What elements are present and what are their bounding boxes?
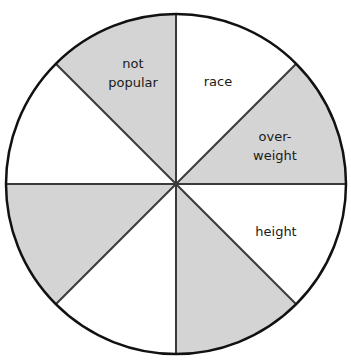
label-overweight-line1: over- (259, 129, 292, 144)
label-not-popular-line2: popular (108, 75, 158, 90)
divider-lines (6, 14, 346, 354)
label-overweight-line2: weight (253, 148, 297, 163)
label-race: race (204, 74, 232, 89)
label-height: height (255, 224, 296, 239)
label-not-popular-line1: not (122, 56, 143, 71)
segmented-circle-diagram: not popular race over- weight height (0, 0, 351, 364)
